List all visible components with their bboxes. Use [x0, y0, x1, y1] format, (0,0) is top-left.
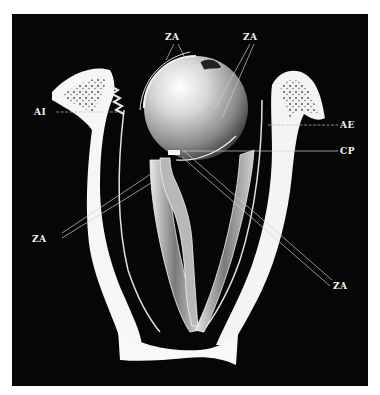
- label-ae: AE: [339, 120, 355, 130]
- label-za-top-left: ZA: [165, 32, 180, 42]
- label-za-left: ZA: [32, 234, 47, 244]
- orbit-diagram: ZA ZA AI AE CP ZA ZA: [0, 0, 380, 395]
- label-za-top-right: ZA: [243, 32, 258, 42]
- label-za-bottom-right: ZA: [333, 281, 348, 291]
- label-cp: CP: [340, 146, 355, 156]
- label-ai: AI: [33, 107, 46, 117]
